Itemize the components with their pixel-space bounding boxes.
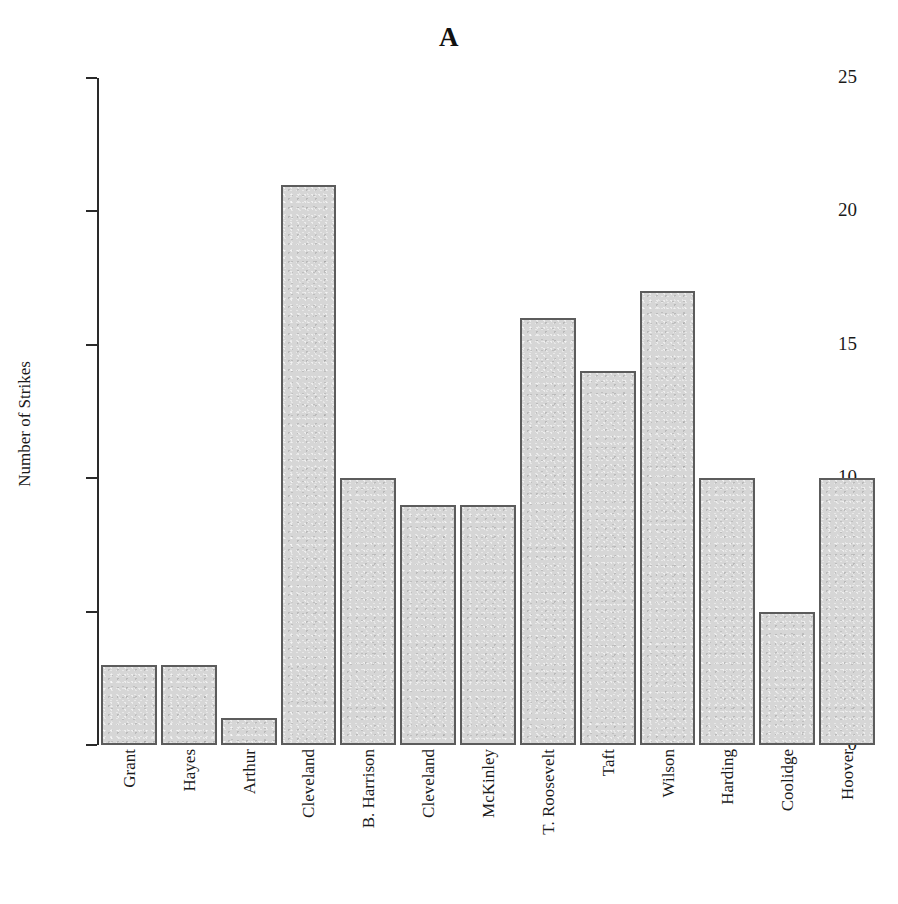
bar (101, 665, 157, 745)
x-axis-tick-label: Cleveland (281, 749, 337, 897)
x-axis-tick-label-text: Cleveland (420, 749, 437, 818)
x-axis-tick-labels: GrantHayesArthurClevelandB. HarrisonClev… (99, 749, 877, 899)
chart-figure: A Number of Strikes 0510152025 GrantHaye… (0, 0, 898, 904)
y-axis-tick (86, 744, 97, 746)
x-axis-tick-label: Wilson (640, 749, 696, 897)
x-axis-tick-label-text: McKinley (479, 749, 496, 818)
x-axis-tick-label-text: Cleveland (300, 749, 317, 818)
x-axis-tick-label: Harding (699, 749, 755, 897)
bar-series (99, 78, 877, 745)
bar (161, 665, 217, 745)
x-axis-tick-label: Grant (101, 749, 157, 897)
x-axis-tick-label-text: Arthur (240, 749, 257, 794)
x-axis-tick-label-text: Harding (719, 749, 736, 805)
x-axis-tick-label-text: B. Harrison (360, 749, 377, 828)
bar (460, 505, 516, 745)
bar (281, 185, 337, 745)
y-axis-label: Number of Strikes (10, 324, 40, 524)
bar (520, 318, 576, 745)
x-axis-tick-label-text: Hoover (839, 749, 856, 800)
bar (580, 371, 636, 745)
page-title: A (0, 22, 898, 53)
bar (759, 612, 815, 745)
x-axis-tick-label: Taft (580, 749, 636, 897)
x-axis-tick-label: Hayes (161, 749, 217, 897)
bar (640, 291, 696, 745)
bar (819, 478, 875, 745)
x-axis-tick-label: McKinley (460, 749, 516, 897)
bar (699, 478, 755, 745)
x-axis-tick-label-text: Wilson (659, 749, 676, 797)
y-axis-tick (86, 477, 97, 479)
x-axis-tick-label: Arthur (221, 749, 277, 897)
x-axis-tick-label: T. Roosevelt (520, 749, 576, 897)
x-axis-tick-label-text: Hayes (180, 749, 197, 791)
plot-area: 0510152025 (97, 78, 877, 745)
y-axis-tick (86, 611, 97, 613)
y-axis-label-text: Number of Strikes (15, 361, 35, 487)
x-axis-tick-label-text: Coolidge (779, 749, 796, 811)
x-axis-tick-label: B. Harrison (340, 749, 396, 897)
x-axis-tick-label: Coolidge (759, 749, 815, 897)
x-axis-tick-label-text: Taft (599, 749, 616, 776)
bar (400, 505, 456, 745)
y-axis-tick (86, 77, 97, 79)
x-axis-tick-label-text: T. Roosevelt (539, 749, 556, 835)
x-axis-tick-label: Cleveland (400, 749, 456, 897)
x-axis-tick-label: Hoover (819, 749, 875, 897)
y-axis-tick (86, 210, 97, 212)
bar (221, 718, 277, 745)
x-axis-tick-label-text: Grant (120, 749, 137, 788)
y-axis-tick (86, 344, 97, 346)
bar (340, 478, 396, 745)
